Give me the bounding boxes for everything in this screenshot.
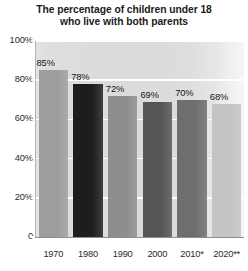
x-axis-label: 2020** (205, 249, 248, 259)
bar-1980 (73, 84, 103, 237)
bar-1970 (39, 70, 69, 237)
y-axis-label: 60% (0, 113, 33, 123)
y-axis-label: 0 (0, 231, 33, 241)
bar-2010star (177, 100, 207, 237)
bar-chart: The percentage of children under 18 who … (0, 0, 248, 271)
y-axis-label: 80% (0, 74, 33, 84)
y-axis-label: 100% (0, 35, 33, 45)
bar-1990 (108, 96, 138, 237)
bar-2020starstar (212, 104, 242, 237)
gridline-100 (36, 41, 244, 42)
chart-title-line-1: The percentage of children under 18 (0, 4, 248, 16)
bar-value-label: 78% (71, 72, 105, 82)
x-axis-line (35, 237, 244, 238)
chart-title-line-2: who live with both parents (0, 16, 248, 28)
y-axis-label: 20% (0, 192, 33, 202)
y-axis-labels: 020%40%60%80%100% (0, 0, 33, 271)
plot-area (36, 41, 244, 237)
bar-value-label: 85% (37, 58, 71, 68)
bar-value-label: 72% (106, 84, 140, 94)
bar-2000 (143, 102, 173, 237)
chart-title: The percentage of children under 18 who … (0, 4, 248, 28)
bar-value-label: 69% (141, 90, 175, 100)
bar-value-label: 70% (175, 88, 209, 98)
bar-value-label: 68% (210, 92, 244, 102)
y-axis-label: 40% (0, 153, 33, 163)
